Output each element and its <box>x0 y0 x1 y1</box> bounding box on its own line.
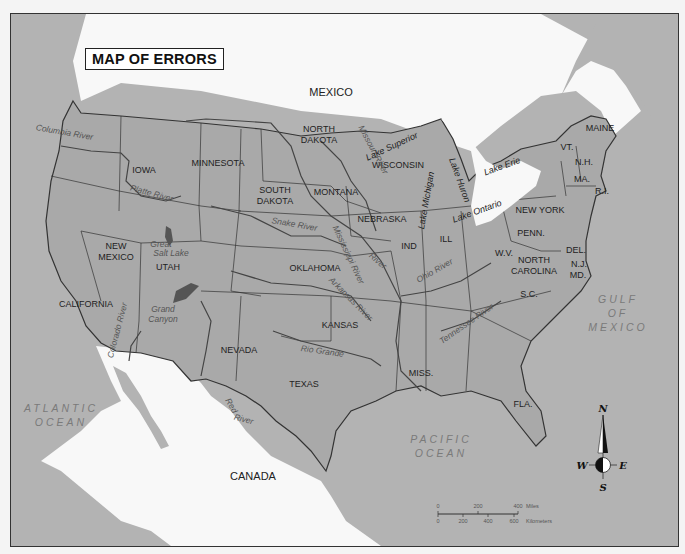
state-label: DAKOTA <box>257 196 293 206</box>
state-label: ILL <box>440 234 453 244</box>
state-label: SOUTH <box>259 185 291 195</box>
river-label: Columbia River <box>35 122 95 142</box>
compass-w-label: W <box>576 460 589 471</box>
state-label: VT. <box>560 142 573 152</box>
compass-e-label: E <box>618 460 627 471</box>
state-label: OKLAHOMA <box>289 263 340 273</box>
lake-label: Lake Erie <box>482 155 521 177</box>
state-label: FLA. <box>513 399 532 409</box>
feature-label: Canyon <box>148 314 178 324</box>
labels-layer: MEXICOCANADANORTHDAKOTAMINNESOTAIOWASOUT… <box>11 14 678 546</box>
state-label: CALIFORNIA <box>59 299 113 309</box>
scale-km-label: 400 <box>483 518 492 524</box>
lake-label: Lake Michigan <box>416 171 436 230</box>
state-label: NEVADA <box>221 345 257 355</box>
scale-miles-unit: Miles <box>526 503 539 509</box>
lake-label: Lake Ontario <box>451 198 503 225</box>
state-label: MONTANA <box>314 187 358 197</box>
state-label: MINNESOTA <box>192 158 245 168</box>
state-label: MEXICO <box>98 252 134 262</box>
river-label: River <box>233 412 256 427</box>
state-label: W.V. <box>495 248 513 258</box>
state-label: MD. <box>570 270 587 280</box>
scale-km-unit: Kilometers <box>526 518 552 524</box>
scale-miles-label: 0 <box>436 503 439 509</box>
state-label: R.I. <box>595 186 609 196</box>
country-label: CANADA <box>230 470 277 482</box>
river-label: Arkansas River <box>326 274 375 323</box>
state-label: MAINE <box>586 123 615 133</box>
river-label: Rio Grande <box>300 343 345 359</box>
feature-label: Grand <box>151 304 175 314</box>
state-label: N.J. <box>571 259 587 269</box>
state-label: NORTH <box>518 255 550 265</box>
compass-n-label: N <box>597 403 608 414</box>
state-label: S.C. <box>520 289 538 299</box>
state-label: KANSAS <box>322 320 359 330</box>
river-label: Tennessee River <box>437 301 496 346</box>
scale-km-label: 600 <box>509 518 518 524</box>
map-frame: MEXICOCANADANORTHDAKOTAMINNESOTAIOWASOUT… <box>10 13 679 547</box>
scale-km-label: 200 <box>458 518 467 524</box>
scale-bar <box>438 511 518 517</box>
river-label: Platte River <box>129 183 175 204</box>
scale-miles-label: 200 <box>473 503 482 509</box>
state-label: NEBRASKA <box>357 214 406 224</box>
compass-rose-icon <box>589 415 617 479</box>
ocean-label: OF <box>608 307 629 319</box>
state-label: UTAH <box>156 262 180 272</box>
state-label: IOWA <box>132 165 156 175</box>
state-label: NORTH <box>303 124 335 134</box>
state-label: TEXAS <box>289 379 319 389</box>
state-label: MA. <box>574 174 590 184</box>
compass-s-label: S <box>599 482 606 493</box>
ocean-label: OCEAN <box>415 447 467 459</box>
lake-label: Lake Huron <box>447 156 472 203</box>
ocean-label: GULF <box>598 293 638 305</box>
state-label: PENN. <box>517 228 545 238</box>
state-label: IND <box>401 241 417 251</box>
state-label: DEL. <box>566 245 586 255</box>
state-label: NEW YORK <box>516 205 565 215</box>
map-title: MAP OF ERRORS <box>85 48 224 70</box>
river-label: Ohio River <box>415 255 456 284</box>
feature-label: Salt Lake <box>153 248 189 258</box>
river-label: River <box>367 250 390 271</box>
ocean-label: OCEAN <box>35 416 87 428</box>
ocean-label: ATLANTIC <box>23 402 98 414</box>
ocean-label: PACIFIC <box>410 433 472 445</box>
river-label: Snake River <box>271 215 319 233</box>
state-label: MISS. <box>409 368 434 378</box>
river-label: Colorado River <box>105 300 130 358</box>
state-label: CAROLINA <box>511 266 557 276</box>
country-label: MEXICO <box>309 86 353 98</box>
scale-km-label: 0 <box>436 518 439 524</box>
state-label: N.H. <box>575 157 593 167</box>
state-label: NEW <box>106 241 128 251</box>
scale-miles-label: 400 <box>513 503 522 509</box>
state-label: DAKOTA <box>301 135 337 145</box>
ocean-label: MEXICO <box>588 321 647 333</box>
